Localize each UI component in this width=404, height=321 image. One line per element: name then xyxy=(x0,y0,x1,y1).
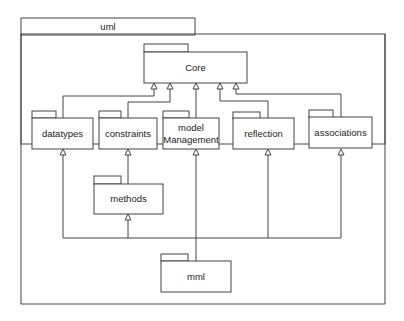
package-tab xyxy=(161,254,188,261)
package-reflection-label: reflection xyxy=(244,128,283,139)
arrow-icon xyxy=(125,149,131,155)
package-tab xyxy=(32,111,56,118)
arrow-icon xyxy=(60,149,66,155)
arrow-icon xyxy=(125,214,131,220)
arrow-icon xyxy=(233,83,239,89)
arrow-icon xyxy=(167,83,173,89)
package-core[interactable]: Core xyxy=(144,44,247,83)
arrow-icon xyxy=(151,83,157,89)
arrow-icon xyxy=(193,149,199,155)
package-model-management-label-line2: Management xyxy=(163,134,219,145)
package-reflection[interactable]: reflection xyxy=(233,112,294,149)
package-uml-label: uml xyxy=(100,21,115,32)
package-constraints-label: constraints xyxy=(105,128,151,139)
package-model-management-label-line1: model xyxy=(178,122,204,133)
package-mml-label: mml xyxy=(187,271,205,282)
package-tab xyxy=(99,111,121,118)
uml-package-diagram: uml xyxy=(0,0,404,321)
package-methods-label: methods xyxy=(110,193,147,204)
package-tab xyxy=(163,111,189,118)
arrow-icon xyxy=(193,83,199,89)
arrow-icon xyxy=(338,149,344,155)
package-tab xyxy=(94,176,121,184)
arrow-icon xyxy=(217,83,223,89)
package-model-management[interactable]: model Management xyxy=(163,111,219,149)
package-associations-label: associations xyxy=(314,127,367,138)
package-core-label: Core xyxy=(185,62,206,73)
package-tab xyxy=(144,44,188,52)
package-datatypes-label: datatypes xyxy=(42,128,83,139)
arrow-icon xyxy=(265,149,271,155)
